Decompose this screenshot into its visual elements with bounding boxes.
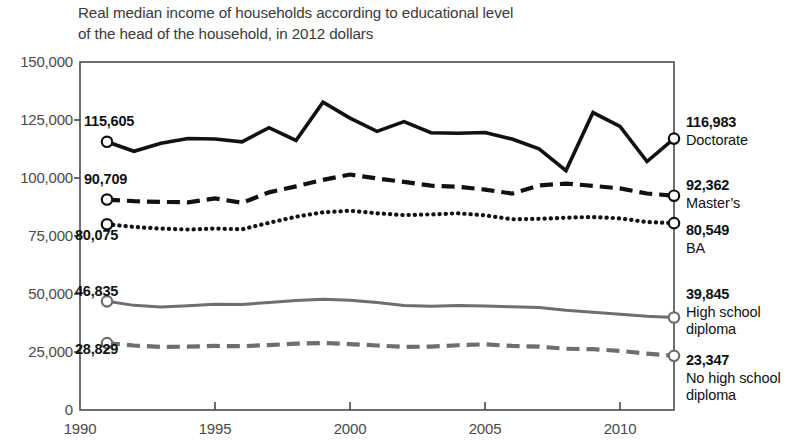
end-label-doctorate-name: Doctorate: [686, 132, 748, 150]
start-label-ba: 80,075: [75, 227, 118, 245]
endpoint-marker-1-start: [102, 194, 112, 204]
end-label-highschool-name-1: High school: [686, 304, 761, 322]
end-label-highschool-name-2: diploma: [686, 321, 761, 339]
end-label-highschool-value: 39,845: [686, 286, 761, 304]
series-line-4: [107, 343, 674, 356]
series-line-1: [107, 175, 674, 203]
endpoint-marker-1-end: [669, 191, 679, 201]
x-axis-ticks: [215, 402, 620, 410]
start-label-ba-value: 80,075: [75, 227, 118, 245]
endpoint-marker-0-start: [102, 137, 112, 147]
end-label-masters: 92,362 Master’s: [686, 177, 740, 212]
chart-figure: Real median income of households accordi…: [0, 0, 810, 445]
end-label-nohighschool-name-1: No high school: [686, 370, 781, 388]
start-label-masters: 90,709: [84, 171, 127, 189]
series-line-0: [107, 102, 674, 170]
start-label-doctorate-value: 115,605: [84, 113, 134, 131]
start-label-doctorate: 115,605: [84, 113, 134, 131]
start-label-nohighschool-value: 28,829: [75, 341, 118, 359]
end-label-ba: 80,549 BA: [686, 222, 729, 257]
end-label-highschool: 39,845 High school diploma: [686, 286, 761, 339]
end-label-masters-value: 92,362: [686, 177, 740, 195]
end-label-masters-name: Master’s: [686, 195, 740, 213]
end-label-ba-value: 80,549: [686, 222, 729, 240]
start-label-highschool: 46,835: [75, 283, 118, 301]
endpoint-marker-2-end: [669, 218, 679, 228]
series-line-3: [107, 299, 674, 317]
series-layer: [107, 102, 674, 356]
end-label-ba-name: BA: [686, 240, 729, 258]
series-line-2: [107, 211, 674, 230]
end-label-nohighschool: 23,347 No high school diploma: [686, 352, 781, 405]
end-label-nohighschool-name-2: diploma: [686, 387, 781, 405]
endpoint-marker-0-end: [669, 133, 679, 143]
start-label-masters-value: 90,709: [84, 171, 127, 189]
end-label-doctorate: 116,983 Doctorate: [686, 114, 748, 149]
end-label-doctorate-value: 116,983: [686, 114, 748, 132]
start-label-highschool-value: 46,835: [75, 283, 118, 301]
endpoint-marker-4-end: [669, 351, 679, 361]
end-label-nohighschool-value: 23,347: [686, 352, 781, 370]
axis-frame: [80, 62, 674, 410]
endpoint-marker-3-end: [669, 312, 679, 322]
start-label-nohighschool: 28,829: [75, 341, 118, 359]
endpoint-markers: [102, 133, 679, 361]
